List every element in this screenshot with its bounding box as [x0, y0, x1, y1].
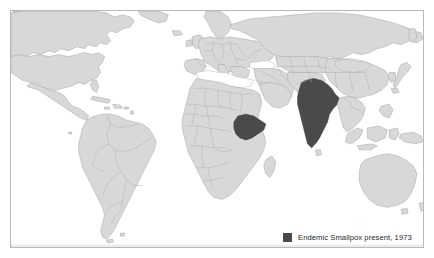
- map-legend: Endemic Smallpox present, 1973: [283, 233, 412, 242]
- region-sulawesi: [389, 128, 399, 140]
- region-antarctica-sliver: [11, 245, 423, 247]
- region-africa: [182, 78, 266, 199]
- region-tasmania: [401, 208, 408, 214]
- region-galapagos: [69, 132, 72, 134]
- region-tierra-del-fuego: [107, 239, 114, 243]
- region-jamaica: [105, 107, 110, 109]
- region-australia: [359, 154, 417, 208]
- legend-label-endemic-smallpox: Endemic Smallpox present, 1973: [298, 233, 412, 242]
- region-greenland: [138, 11, 168, 23]
- region-japan: [393, 63, 411, 89]
- region-florida: [91, 80, 99, 92]
- region-japan-south: [391, 88, 399, 93]
- region-philippines: [379, 104, 393, 118]
- region-new-zealand-south: [419, 202, 423, 211]
- world-map: [11, 11, 423, 247]
- region-canada: [11, 11, 134, 59]
- region-lesser-antilles: [130, 111, 133, 114]
- region-ireland: [186, 40, 192, 47]
- region-sri-lanka: [316, 150, 322, 156]
- legend-swatch-endemic-smallpox: [283, 233, 292, 242]
- region-puerto-rico: [124, 107, 128, 109]
- region-borneo: [367, 126, 387, 142]
- region-hispaniola: [113, 104, 123, 108]
- region-madagascar: [264, 156, 276, 178]
- region-iceland: [172, 31, 182, 36]
- region-india-highlighted: [298, 78, 340, 147]
- region-cuba: [91, 96, 111, 103]
- region-falklands: [120, 233, 124, 236]
- region-south-america: [79, 114, 157, 239]
- region-new-guinea: [399, 132, 423, 144]
- region-southeast-asia: [337, 96, 365, 132]
- smallpox-endemic-map-figure: Endemic Smallpox present, 1973: [0, 0, 434, 258]
- region-scandinavia: [204, 11, 232, 39]
- region-china: [325, 59, 389, 99]
- region-java: [357, 144, 377, 150]
- map-frame: Endemic Smallpox present, 1973: [10, 10, 424, 248]
